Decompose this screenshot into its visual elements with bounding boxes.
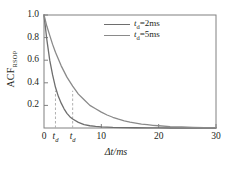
chart-legend: td=2mstd=5ms [104,19,196,41]
legend-swatch [104,35,130,36]
y-axis-title: ACFRSOP [4,34,18,104]
y-tick-label: 1.0 [17,9,39,19]
x-tick-label: 10 [90,131,112,141]
y-tick-label: 0.2 [17,99,39,109]
y-tick-label: 0.4 [17,77,39,87]
y-tick-label: 0.8 [17,32,39,42]
annotation-label: td [62,131,84,143]
x-axis-title: Δt/ms [0,146,232,157]
x-axis-title-text: Δt/ms [105,146,128,157]
y-axis-title-text: ACF [5,68,16,88]
x-tick-label: 20 [148,131,170,141]
chart-figure: ACFRSOP Δt/ms td=2mstd=5ms 0.20.40.60.81… [0,0,232,170]
legend-swatch [104,24,130,25]
legend-item: td=5ms [104,30,196,41]
x-tick-label: 30 [205,131,227,141]
y-tick-label: 0.6 [17,54,39,64]
legend-label: td=5ms [134,29,160,43]
